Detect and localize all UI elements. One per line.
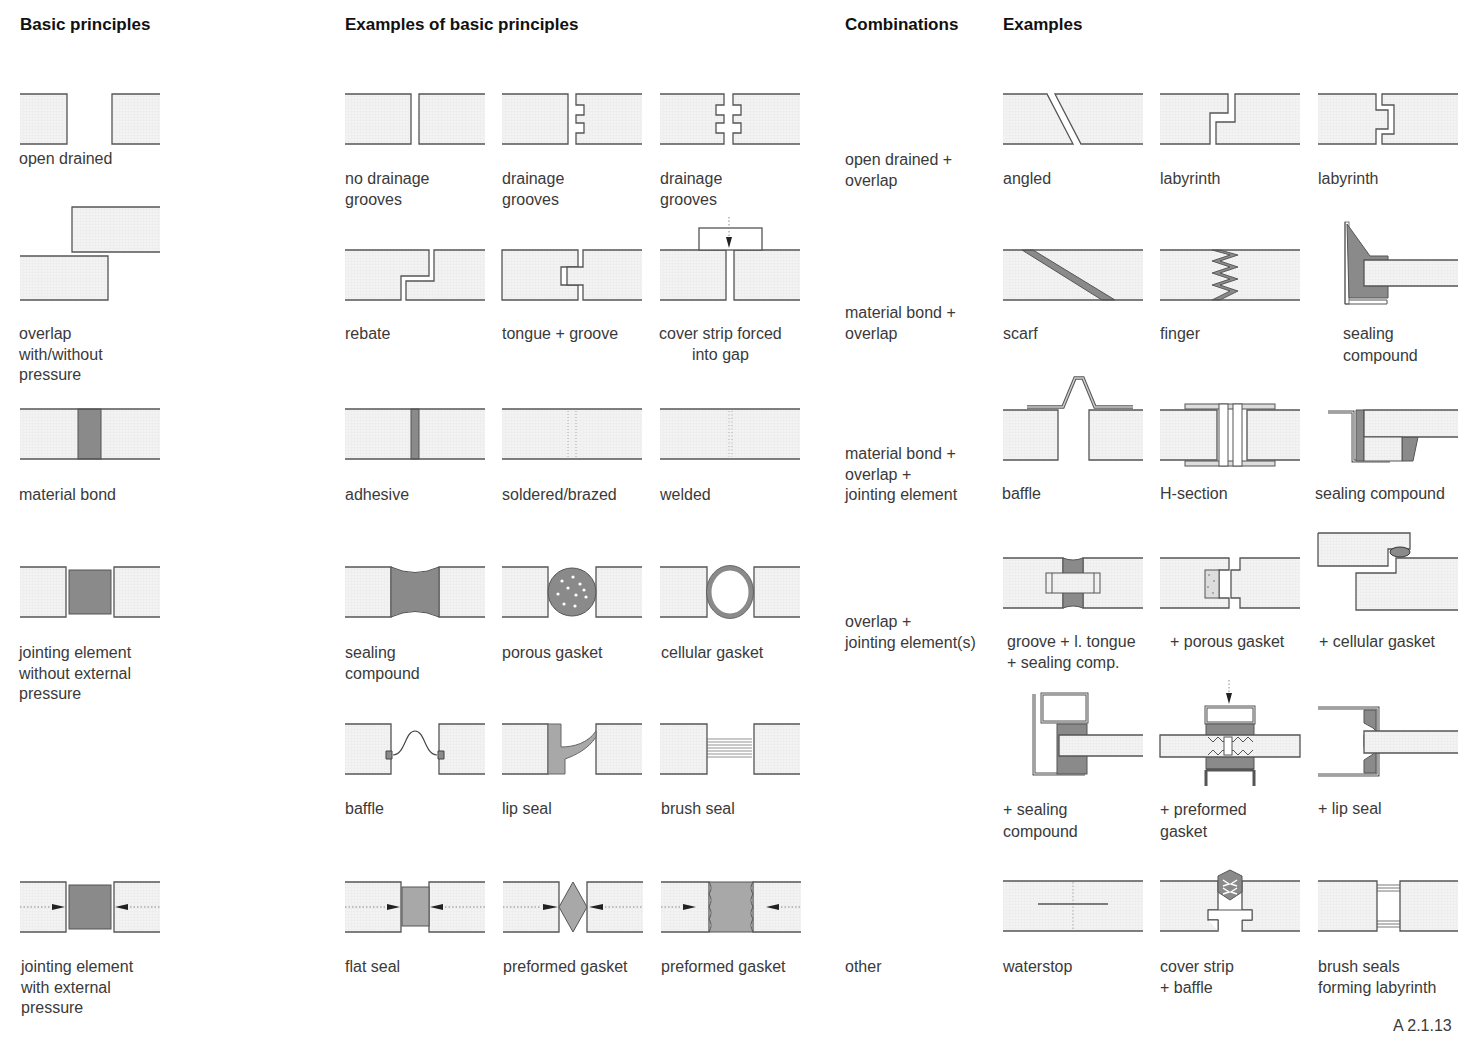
diagram-groove-tongue-sealing <box>1003 557 1143 611</box>
diagram-jointing-element-pressure <box>20 881 160 933</box>
label-combo-material-bond-overlap-jointing: material bond + overlap + jointing eleme… <box>845 444 957 506</box>
label-baffle-combo: baffle <box>1002 484 1041 505</box>
diagram-preformed-gasket-combo <box>1160 680 1300 790</box>
label-groove-tongue-sealing: groove + l. tongue + sealing comp. <box>1007 632 1136 673</box>
label-porous-gasket: porous gasket <box>502 643 603 664</box>
label-labyrinth-2: labyrinth <box>1318 169 1378 190</box>
diagram-tongue-groove <box>502 249 642 301</box>
diagram-no-drainage-grooves <box>345 93 485 145</box>
figure-reference: A 2.1.13 <box>1393 1016 1452 1037</box>
diagram-cellular-gasket-combo <box>1318 532 1458 612</box>
label-rebate: rebate <box>345 324 390 345</box>
diagram-finger <box>1160 249 1300 301</box>
label-sealing-compound-edge: sealing compound <box>1315 484 1445 505</box>
label-jointing-element-no-pressure: jointing element without external pressu… <box>19 643 131 705</box>
diagram-labyrinth-1 <box>1160 93 1300 145</box>
header-examples-basic: Examples of basic principles <box>345 15 578 35</box>
label-labyrinth-1: labyrinth <box>1160 169 1220 190</box>
diagram-porous-gasket <box>502 566 642 618</box>
label-jointing-element-pressure: jointing element with external pressure <box>21 957 133 1019</box>
diagram-welded <box>660 408 800 460</box>
label-cover-strip-baffle: cover strip + baffle <box>1160 957 1234 998</box>
header-combinations: Combinations <box>845 15 958 35</box>
diagram-cover-strip <box>660 227 800 301</box>
diagram-sealing-compound-corner <box>1318 222 1458 306</box>
label-cover-strip: cover strip forced into gap <box>659 324 782 365</box>
label-drainage-grooves-2: drainage grooves <box>660 169 722 210</box>
diagram-lip-seal <box>502 723 642 775</box>
label-waterstop: waterstop <box>1003 957 1072 978</box>
diagram-h-section <box>1160 372 1300 472</box>
diagram-preformed-gasket-2 <box>661 881 801 933</box>
diagram-sealing-compound-frame <box>1003 692 1143 782</box>
diagram-lip-seal-combo <box>1318 705 1458 780</box>
diagram-open-drained <box>20 93 160 145</box>
diagram-brush-seal <box>660 723 800 775</box>
label-combo-open-drained-overlap: open drained + overlap <box>845 150 952 191</box>
diagram-cover-strip-baffle <box>1160 868 1300 932</box>
label-porous-gasket-combo: + porous gasket <box>1170 632 1284 653</box>
label-combo-overlap-jointing: overlap + jointing element(s) <box>845 612 976 653</box>
label-cellular-gasket: cellular gasket <box>661 643 763 664</box>
label-adhesive: adhesive <box>345 485 409 506</box>
diagram-flat-seal <box>345 881 485 933</box>
label-sealing-compound: sealing compound <box>345 643 420 684</box>
label-h-section: H-section <box>1160 484 1228 505</box>
diagram-drainage-grooves-1 <box>502 93 642 145</box>
diagram-scarf <box>1003 249 1143 301</box>
label-finger: finger <box>1160 324 1200 345</box>
header-examples: Examples <box>1003 15 1082 35</box>
label-sealing-compound-frame: + sealing compound <box>1003 799 1078 843</box>
header-basic-principles: Basic principles <box>20 15 150 35</box>
label-sealing-compound-corner: sealing compound <box>1343 323 1418 367</box>
label-angled: angled <box>1003 169 1051 190</box>
label-cellular-gasket-combo: + cellular gasket <box>1319 632 1435 653</box>
diagram-drainage-grooves-2 <box>660 93 800 145</box>
label-overlap: overlap with/without pressure <box>19 324 103 386</box>
label-lip-seal: lip seal <box>502 799 552 820</box>
label-preformed-gasket-combo: + preformed gasket <box>1160 799 1247 843</box>
diagram-rebate <box>345 249 485 301</box>
label-welded: welded <box>660 485 711 506</box>
label-brush-seal: brush seal <box>661 799 735 820</box>
diagram-soldered <box>502 408 642 460</box>
diagram-baffle <box>345 723 485 775</box>
label-soldered: soldered/brazed <box>502 485 617 506</box>
diagram-sealing-compound <box>345 566 485 618</box>
diagram-adhesive <box>345 408 485 460</box>
diagram-material-bond <box>20 408 160 460</box>
diagram-baffle-combo <box>1003 372 1143 462</box>
diagram-labyrinth-2 <box>1318 93 1458 145</box>
label-lip-seal-combo: + lip seal <box>1318 799 1382 820</box>
label-combo-material-bond-overlap: material bond + overlap <box>845 303 956 344</box>
label-preformed-gasket-1: preformed gasket <box>503 957 628 978</box>
label-tongue-groove: tongue + groove <box>502 324 618 345</box>
label-no-drainage-grooves: no drainage grooves <box>345 169 430 210</box>
label-brush-seals-labyrinth: brush seals forming labyrinth <box>1318 957 1436 998</box>
diagram-cellular-gasket <box>660 566 800 618</box>
label-combo-other: other <box>845 957 881 978</box>
label-flat-seal: flat seal <box>345 957 400 978</box>
diagram-angled <box>1003 93 1143 145</box>
label-preformed-gasket-2: preformed gasket <box>661 957 786 978</box>
label-scarf: scarf <box>1003 324 1038 345</box>
label-open-drained: open drained <box>19 149 112 170</box>
label-drainage-grooves-1: drainage grooves <box>502 169 564 210</box>
diagram-overlap <box>20 206 160 301</box>
diagram-preformed-gasket-1 <box>503 881 643 933</box>
label-material-bond: material bond <box>19 485 116 506</box>
diagram-waterstop <box>1003 880 1143 932</box>
diagram-brush-seals-labyrinth <box>1318 880 1458 932</box>
label-baffle: baffle <box>345 799 384 820</box>
diagram-jointing-element-no-pressure <box>20 566 160 618</box>
diagram-porous-gasket-combo <box>1160 557 1300 611</box>
diagram-sealing-compound-edge <box>1318 405 1458 465</box>
